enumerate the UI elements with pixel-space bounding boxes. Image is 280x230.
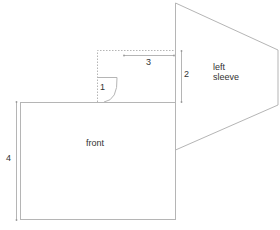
sleeve-label-line2: sleeve (213, 72, 239, 83)
front-label: front (86, 138, 104, 149)
pattern-diagram (0, 0, 280, 230)
measurement-3-label: 3 (146, 57, 151, 68)
measurement-2-label: 2 (184, 69, 189, 80)
measurement-1-label: 1 (100, 82, 105, 93)
front-piece (21, 103, 176, 220)
measurement-4-label: 4 (6, 153, 11, 164)
dotted-guide (98, 51, 176, 103)
